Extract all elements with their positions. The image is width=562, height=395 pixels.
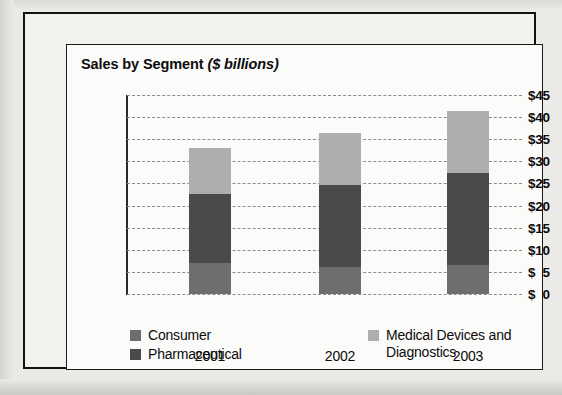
legend-item-medical-devices[interactable]: Medical Devices andDiagnostics	[368, 327, 543, 361]
y-axis-tick-label: $15	[528, 220, 550, 235]
y-axis-tick-label: $45	[528, 88, 550, 103]
bar-segment-2002-medical-devices-and-diagnostics[interactable]	[319, 133, 361, 185]
scan-artifact-left	[0, 0, 14, 395]
legend-label-medical-devices: Medical Devices andDiagnostics	[386, 327, 511, 361]
bar-segment-2001-consumer[interactable]	[189, 263, 231, 294]
chart-title: Sales by Segment ($ billions)	[81, 56, 279, 72]
legend-swatch-consumer	[130, 330, 141, 341]
legend-swatch-pharmaceutical	[130, 349, 141, 360]
scan-artifact-bottom	[0, 379, 562, 395]
outer-border: Sales by Segment ($ billions) $ 0$ 5$10$…	[23, 12, 536, 369]
bar-segment-2002-pharmaceutical[interactable]	[319, 185, 361, 268]
bar-segment-2001-medical-devices-and-diagnostics[interactable]	[189, 148, 231, 194]
scanned-page: Sales by Segment ($ billions) $ 0$ 5$10$…	[0, 0, 562, 395]
y-axis-tick-label: $20	[528, 198, 550, 213]
y-axis-tick-label: $ 0	[528, 287, 550, 302]
y-axis-tick-label: $10	[528, 242, 550, 257]
bar-segment-2002-consumer[interactable]	[319, 267, 361, 294]
bar-segment-2003-pharmaceutical[interactable]	[447, 173, 489, 265]
chart-title-text: Sales by Segment	[81, 56, 204, 72]
legend-label-consumer: Consumer	[148, 327, 211, 344]
bar-segment-2001-pharmaceutical[interactable]	[189, 194, 231, 263]
y-axis-tick-label: $40	[528, 110, 550, 125]
legend-label-medical-devices-line1: Medical Devices and	[386, 327, 511, 343]
scan-artifact-top	[0, 0, 562, 10]
bar-2002[interactable]	[319, 95, 361, 294]
bar-2003[interactable]	[447, 95, 489, 294]
gridline	[127, 294, 522, 295]
legend-label-medical-devices-line2: Diagnostics	[386, 344, 456, 360]
bar-2001[interactable]	[189, 95, 231, 294]
plot-area: $ 0$ 5$10$15$20$25$30$35$40$452001200220…	[127, 95, 522, 294]
legend-swatch-medical-devices	[368, 330, 379, 341]
y-axis-tick-label: $30	[528, 154, 550, 169]
chart-title-units: ($ billions)	[207, 56, 278, 72]
y-axis-tick-label: $35	[528, 132, 550, 147]
legend-label-pharmaceutical: Pharmaceutical	[148, 346, 242, 363]
chart-container: Sales by Segment ($ billions) $ 0$ 5$10$…	[66, 44, 543, 370]
bar-segment-2003-consumer[interactable]	[447, 265, 489, 294]
legend-item-pharmaceutical[interactable]: Pharmaceutical	[130, 346, 242, 363]
y-axis-tick-label: $ 5	[528, 264, 550, 279]
bar-segment-2003-medical-devices-and-diagnostics[interactable]	[447, 111, 489, 173]
chart-legend: Consumer Pharmaceutical Medical Devices …	[130, 327, 540, 371]
legend-item-consumer[interactable]: Consumer	[130, 327, 211, 344]
y-axis-tick-label: $25	[528, 176, 550, 191]
